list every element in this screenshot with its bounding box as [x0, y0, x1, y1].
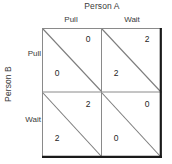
payoff-wait-wait-column-player: 0: [140, 99, 154, 109]
column-header-pull: Pull: [41, 15, 101, 24]
payoff-matrix-figure: Person A Pull Wait Person B Pull Wait 0 …: [0, 0, 172, 164]
row-header-wait: Wait: [11, 115, 41, 124]
row-header-pull: Pull: [11, 49, 41, 58]
column-header-wait: Wait: [102, 15, 162, 24]
payoff-wait-pull-column-player: 2: [81, 99, 95, 109]
row-player-label: Person B: [3, 56, 13, 112]
matrix-grid: 0 0 2 2 2 2 0 0: [42, 28, 162, 158]
payoff-pull-wait-column-player: 2: [140, 34, 154, 44]
payoff-wait-pull-row-player: 2: [50, 133, 64, 143]
payoff-wait-wait-row-player: 0: [109, 133, 123, 143]
payoff-pull-pull-row-player: 0: [50, 68, 64, 78]
column-player-label: Person A: [42, 1, 162, 11]
payoff-pull-wait-row-player: 2: [109, 68, 123, 78]
payoff-pull-pull-column-player: 0: [81, 34, 95, 44]
